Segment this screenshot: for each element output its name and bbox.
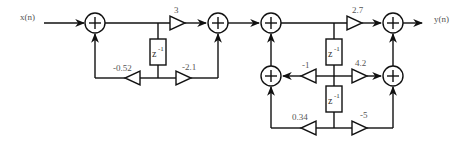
delay-block-3: z -1	[326, 86, 342, 112]
delay-block-2: z -1	[326, 39, 342, 65]
gain-2.7-label: 2.7	[352, 5, 364, 15]
gain-0.34-triangle	[301, 121, 316, 135]
gain-4.2-label: 4.2	[355, 58, 366, 68]
gain-neg5-triangle	[352, 121, 367, 135]
gain-neg2.1-label: -2.1	[182, 62, 196, 72]
gain-neg0.52-triangle	[125, 71, 140, 85]
gain-2.7-triangle	[347, 16, 362, 30]
gain-neg1-triangle	[301, 69, 316, 83]
adder-output	[383, 13, 403, 33]
output-label: y(n)	[434, 14, 449, 24]
svg-text:z: z	[328, 95, 333, 106]
svg-text:-1: -1	[158, 45, 164, 53]
svg-text:-1: -1	[334, 45, 340, 53]
adder-2	[208, 13, 228, 33]
adder-1	[85, 13, 105, 33]
gain-0.34-label: 0.34	[292, 112, 308, 122]
delay-block-1: z -1	[150, 39, 166, 65]
adder-mid-right	[383, 66, 403, 86]
gain-4.2-triangle	[352, 69, 367, 83]
gain-neg2.1-triangle	[176, 71, 191, 85]
adder-mid-left	[261, 66, 281, 86]
adder-3	[261, 13, 281, 33]
signal-flow-diagram: x(n) 3 z -1 -0.52 -2.1 2.7	[0, 0, 469, 145]
gain-neg5-label: -5	[360, 110, 368, 120]
gain-neg0.52-label: -0.52	[113, 63, 132, 73]
gain-neg1-label: -1	[302, 60, 310, 70]
svg-text:z: z	[328, 48, 333, 59]
input-label: x(n)	[20, 12, 35, 22]
gain-3-label: 3	[174, 5, 179, 15]
svg-text:z: z	[152, 48, 157, 59]
svg-text:-1: -1	[334, 92, 340, 100]
gain-3-triangle	[170, 16, 185, 30]
